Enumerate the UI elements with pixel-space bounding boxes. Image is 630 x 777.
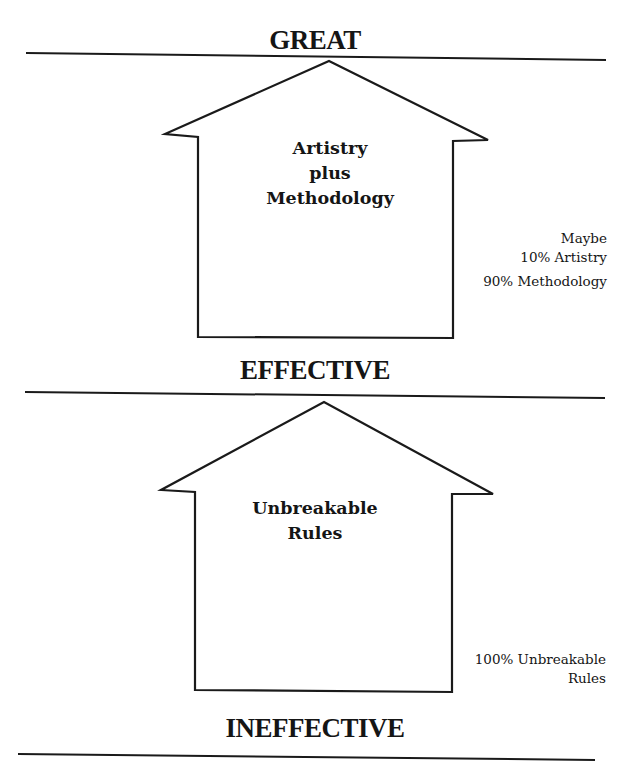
upper-house-note: Maybe 10% Artistry 90% Methodology <box>440 229 607 291</box>
lower-house-arrow <box>161 402 493 692</box>
note-line: 90% Methodology <box>440 272 607 291</box>
lower-house-line: Rules <box>225 521 405 546</box>
upper-house-label: Artistry plus Methodology <box>240 136 420 211</box>
note-line: Rules <box>430 669 606 688</box>
level-effective-label: EFFECTIVE <box>0 355 630 386</box>
lower-house-line: Unbreakable <box>225 496 405 521</box>
note-line: 10% Artistry <box>440 248 607 267</box>
level-great-label: GREAT <box>0 25 630 56</box>
lower-house-note: 100% Unbreakable Rules <box>430 650 606 688</box>
effective-divider-line <box>25 392 605 398</box>
upper-house-line: Artistry <box>240 136 420 161</box>
level-ineffective-label: INEFFECTIVE <box>0 713 630 744</box>
upper-house-line: plus <box>240 161 420 186</box>
note-line: Maybe <box>440 229 607 248</box>
ineffective-divider-line <box>18 754 595 760</box>
note-line: 100% Unbreakable <box>430 650 606 669</box>
lower-house-label: Unbreakable Rules <box>225 496 405 546</box>
upper-house-line: Methodology <box>240 186 420 211</box>
